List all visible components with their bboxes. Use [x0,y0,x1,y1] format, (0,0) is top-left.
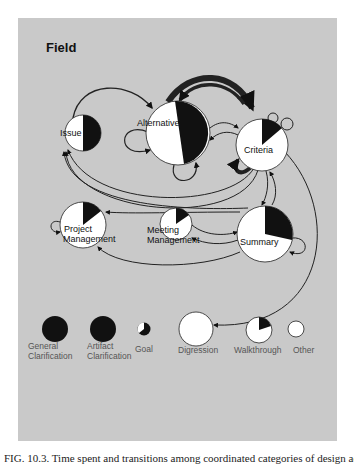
svg-text:Digression: Digression [178,345,218,355]
svg-text:Alternative: Alternative [137,118,180,128]
svg-text:Management: Management [63,234,116,244]
legend-goal: Goal [135,323,153,355]
node-meeting-management: Meeting Management [147,208,200,245]
node-project-management: Project Management [60,202,116,248]
edge-meeting-summary [192,225,237,234]
legend-other: Other [288,321,314,355]
svg-text:Clarification: Clarification [87,351,132,361]
svg-text:Summary: Summary [240,237,279,247]
edge-alternative-self-bottom [173,163,196,181]
svg-text:Meeting: Meeting [147,225,179,235]
edge-summary-criteria [270,172,276,205]
svg-text:General: General [28,341,58,351]
legend-walkthrough: Walkthrough [234,317,282,355]
summary-wedge [265,206,293,240]
node-summary: Summary [237,206,293,262]
edge-criteria-summary [262,171,268,205]
svg-text:Clarification: Clarification [28,351,73,361]
edge-issue-alternative [73,88,152,118]
svg-text:Management: Management [147,235,200,245]
node-alternative: Alternative [137,101,210,165]
svg-text:Criteria: Criteria [244,145,273,155]
legend-artifact-clarification: Artifact Clarification [87,316,132,361]
legend: General Clarification Artifact Clarifica… [28,312,314,361]
svg-text:Artifact: Artifact [87,341,114,351]
svg-text:Issue: Issue [60,128,82,138]
figure-caption: FIG. 10.3. Time spent and transitions am… [4,452,354,464]
edge-criteria-alternative-thin [210,132,238,140]
svg-text:Project: Project [64,224,93,234]
edge-alternative-criteria-thin [210,123,238,128]
legend-general-clarification: General Clarification [28,316,73,361]
svg-text:Walkthrough: Walkthrough [234,345,282,355]
edge-summary-issue [64,152,248,209]
issue-wedge [83,115,101,151]
node-criteria: Criteria [236,119,288,171]
edge-summary-project [98,247,240,265]
svg-text:Other: Other [293,345,314,355]
svg-text:Goal: Goal [135,344,153,354]
diagram-title: Field [46,40,76,55]
edge-project-self [51,221,60,232]
node-issue: Issue [60,115,101,151]
legend-digression: Digression [178,312,218,355]
